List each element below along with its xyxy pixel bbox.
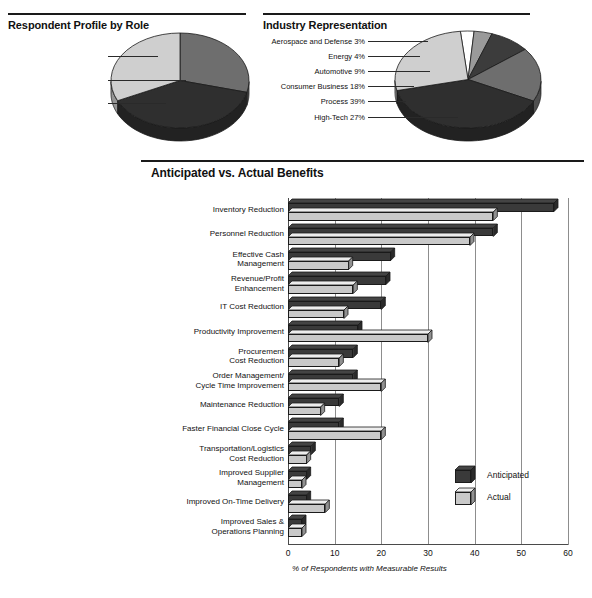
bar-actual-1	[288, 233, 474, 246]
bar-actual-12-3d-faces	[288, 500, 329, 513]
bar-category-label-line: Operations Planning	[212, 526, 285, 536]
bar-category-label-line: Management	[219, 477, 284, 487]
pie-label-energy: Energy 4%	[261, 52, 365, 61]
bar-category-label-line: Effective Cash	[233, 249, 284, 259]
bar-actual-12	[288, 500, 329, 513]
bar-actual-0	[288, 208, 497, 221]
panel-divider-rule	[8, 13, 246, 15]
gridline-30	[428, 198, 429, 545]
leader-line-user	[108, 56, 158, 57]
bar-actual-2-3d-faces	[288, 257, 353, 270]
respondent-panel-title: Respondent Profile by Role	[8, 19, 149, 31]
pie-label-consumer-business: Consumer Business 18%	[261, 82, 365, 91]
bar-actual-11	[288, 476, 306, 489]
bar-category-label: Improved SupplierManagement	[219, 468, 284, 487]
gridline-50	[521, 198, 522, 545]
x-tick-label-50: 50	[517, 548, 526, 558]
bar-category-label-line: Transportation/Logistics	[199, 444, 284, 454]
bar-actual-5	[288, 330, 432, 343]
bar-actual-6-3d-faces	[288, 354, 343, 367]
panel-divider-rule	[263, 13, 530, 15]
bar-actual-10-3d-faces	[288, 451, 311, 464]
bar-actual-8-3d-faces	[288, 403, 325, 416]
bar-category-label-line: Faster Financial Close Cycle	[182, 424, 284, 434]
leader-line-process	[368, 101, 406, 102]
bar-category-label: Effective CashManagement	[233, 249, 284, 268]
bar-category-label: IT Cost Reduction	[220, 303, 284, 313]
legend-swatch-1	[455, 488, 475, 505]
respondent-pie-chart	[110, 32, 250, 142]
leader-line-executive	[108, 103, 166, 104]
benefits-bar-chart: 0102030405060% of Respondents with Measu…	[0, 150, 592, 598]
respondent-pie-svg	[110, 32, 250, 142]
bar-category-label: Faster Financial Close Cycle	[182, 424, 284, 434]
bar-category-label-line: Improved On-Time Delivery	[186, 497, 284, 507]
bar-actual-9	[288, 427, 385, 440]
bar-category-label-line: Revenue/Profit	[231, 274, 284, 284]
bar-actual-7	[288, 379, 385, 392]
gridline-60	[568, 198, 569, 545]
bar-category-label-line: Order Management/	[196, 371, 284, 381]
bar-actual-1-3d-faces	[288, 233, 474, 246]
leader-line-automotive	[368, 71, 430, 72]
x-tick-label-60: 60	[563, 548, 572, 558]
bar-category-label: ProcurementCost Reduction	[229, 346, 284, 365]
bar-category-label-line: Cost Reduction	[229, 356, 284, 366]
leader-line-aerospace	[368, 41, 428, 42]
bar-category-label-line: Cost Reduction	[199, 453, 284, 463]
leader-line-energy	[368, 56, 420, 57]
bar-actual-4	[288, 306, 348, 319]
bar-category-label-line: Personnel Reduction	[210, 230, 284, 240]
x-tick-label-10: 10	[330, 548, 339, 558]
bar-category-label-line: Cycle Time Improvement	[196, 380, 284, 390]
industry-panel-title: Industry Representation	[263, 19, 387, 31]
pie-label-aerospace: Aerospace and Defense 3%	[261, 37, 365, 46]
bar-category-label-line: IT Cost Reduction	[220, 303, 284, 313]
bar-actual-6	[288, 354, 343, 367]
bar-category-label-line: Procurement	[229, 346, 284, 356]
bar-category-label-line: Enhancement	[231, 283, 284, 293]
bar-actual-13-3d-faces	[288, 524, 306, 537]
pie-label-automotive: Automotive 9%	[261, 67, 365, 76]
bar-actual-9-3d-faces	[288, 427, 385, 440]
bar-actual-7-3d-faces	[288, 379, 385, 392]
bar-category-label: Order Management/Cycle Time Improvement	[196, 371, 284, 390]
bar-category-label-line: Management	[233, 259, 284, 269]
leader-line-consumer-business	[368, 86, 414, 87]
x-tick-label-30: 30	[423, 548, 432, 558]
x-tick-label-40: 40	[470, 548, 479, 558]
bar-category-label: Improved On-Time Delivery	[186, 497, 284, 507]
bar-actual-2	[288, 257, 353, 270]
bar-category-label: Productivity Improvement	[194, 327, 284, 337]
pie-label-process: Process 39%	[261, 97, 365, 106]
x-tick-label-20: 20	[377, 548, 386, 558]
bar-actual-4-3d-faces	[288, 306, 348, 319]
legend-swatch-0-3d-faces	[455, 466, 475, 483]
bar-actual-10	[288, 451, 311, 464]
bar-category-label-line: Improved Supplier	[219, 468, 284, 478]
industry-representation-panel: Industry Representation Aerospace and De…	[258, 0, 592, 150]
leader-line-implementer	[108, 80, 186, 81]
leader-line-high-tech	[368, 117, 458, 118]
legend-swatch-1-3d-faces	[455, 488, 475, 505]
bar-actual-5-3d-faces	[288, 330, 432, 343]
bar-category-label: Improved Sales &Operations Planning	[212, 517, 285, 536]
bar-category-label: Maintenance Reduction	[200, 400, 284, 410]
respondent-profile-panel: Respondent Profile by Role User 29% Impl…	[0, 0, 256, 150]
x-axis-line	[288, 544, 568, 545]
industry-pie-svg	[394, 30, 542, 142]
bar-actual-11-3d-faces	[288, 476, 306, 489]
pie-label-high-tech: High-Tech 27%	[261, 113, 365, 122]
x-axis-title: % of Respondents with Measurable Results	[292, 564, 447, 573]
bar-actual-3	[288, 281, 357, 294]
bar-category-label: Revenue/ProfitEnhancement	[231, 274, 284, 293]
bar-category-label: Transportation/LogisticsCost Reduction	[199, 444, 284, 463]
bar-actual-13	[288, 524, 306, 537]
bar-actual-0-3d-faces	[288, 208, 497, 221]
legend-swatch-0	[455, 466, 475, 483]
bar-actual-3-3d-faces	[288, 281, 357, 294]
bar-actual-8	[288, 403, 325, 416]
benefits-panel: Anticipated vs. Actual Benefits 01020304…	[0, 150, 592, 598]
bar-category-label-line: Maintenance Reduction	[200, 400, 284, 410]
bar-category-label-line: Improved Sales &	[212, 517, 285, 527]
